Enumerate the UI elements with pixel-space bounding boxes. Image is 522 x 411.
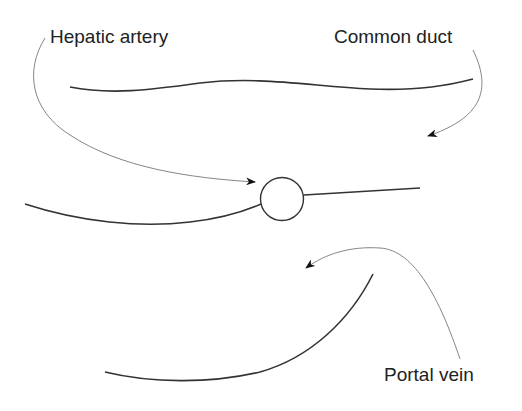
- anatomy-diagram: Hepatic artery Common duct Portal vein: [0, 0, 522, 411]
- portal-vein-vessel: [105, 274, 373, 381]
- common-duct-label: Common duct: [334, 27, 452, 46]
- diagram-drawing: [0, 0, 522, 411]
- common-duct-pointer-arrow: [428, 50, 482, 136]
- hepatic-artery-vessel-right: [304, 188, 420, 195]
- portal-vein-pointer-arrow: [306, 248, 460, 359]
- portal-vein-label: Portal vein: [384, 365, 474, 384]
- common-duct-vessel: [70, 79, 473, 91]
- vessel-cross-section-circle: [261, 178, 304, 221]
- hepatic-artery-pointer-arrow: [34, 38, 255, 182]
- hepatic-artery-label: Hepatic artery: [50, 27, 168, 46]
- hepatic-artery-vessel-left: [25, 204, 261, 224]
